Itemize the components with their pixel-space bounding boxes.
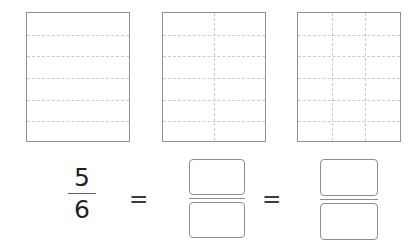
area-model-twelfths[interactable] bbox=[162, 12, 266, 142]
denominator-input-eighteenths[interactable] bbox=[320, 203, 378, 240]
fraction-denominator: 6 bbox=[60, 195, 104, 224]
grid-hline bbox=[298, 121, 400, 122]
grid-vline bbox=[365, 13, 366, 141]
fraction-bar bbox=[320, 199, 378, 200]
grid-hline bbox=[27, 78, 129, 79]
grid-vline bbox=[332, 13, 333, 141]
grid-hline bbox=[298, 100, 400, 101]
denominator-input-twelfths[interactable] bbox=[189, 202, 245, 238]
area-model-sixths[interactable] bbox=[26, 12, 130, 142]
area-model-eighteenths[interactable] bbox=[297, 12, 401, 142]
grid-hline bbox=[298, 35, 400, 36]
equation-row: 5 6 = = bbox=[0, 155, 415, 249]
grid-vline bbox=[214, 13, 215, 141]
grid-lines-sixths bbox=[27, 13, 129, 141]
area-models-row bbox=[0, 0, 415, 155]
grid-hline bbox=[298, 78, 400, 79]
numerator-input-eighteenths[interactable] bbox=[320, 159, 378, 196]
blank-fraction-twelfths bbox=[189, 159, 245, 238]
equals-sign-1: = bbox=[129, 188, 148, 211]
grid-hline bbox=[27, 100, 129, 101]
grid-hline bbox=[27, 35, 129, 36]
fraction-bar bbox=[189, 198, 245, 199]
grid-hline bbox=[27, 121, 129, 122]
grid-lines-twelfths bbox=[163, 13, 265, 141]
grid-hline bbox=[27, 56, 129, 57]
fraction-numerator: 5 bbox=[60, 163, 104, 192]
equals-sign-2: = bbox=[262, 188, 281, 211]
fraction-bar bbox=[68, 193, 96, 194]
numerator-input-twelfths[interactable] bbox=[189, 159, 245, 195]
blank-fraction-eighteenths bbox=[320, 159, 378, 240]
grid-lines-eighteenths bbox=[298, 13, 400, 141]
fraction-five-sixths: 5 6 bbox=[60, 163, 104, 224]
grid-hline bbox=[298, 56, 400, 57]
